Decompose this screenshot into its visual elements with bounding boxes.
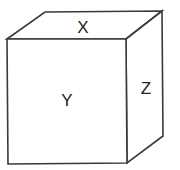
cube-diagram: X Y Z [0,0,180,170]
side-face-label: Z [141,79,151,98]
front-face-label: Y [61,91,72,110]
top-face-label: X [77,18,88,37]
